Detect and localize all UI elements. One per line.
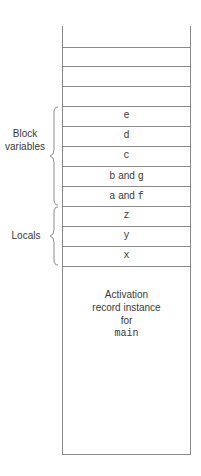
block-variables-label: Block variables [2,127,48,153]
slot-divider [63,47,190,48]
cell-y: y [63,226,190,246]
cell-c: c [63,146,190,166]
cell-d: d [63,126,190,146]
slot-divider [63,66,190,67]
var-g: g [138,171,144,182]
block-variables-line1: Block [2,127,48,140]
slot-divider [63,86,190,87]
ar-line-4: main [63,327,190,340]
locals-label: Locals [8,229,44,242]
slot-divider [63,266,190,267]
activation-record-stack: e d c b and g a and f z y x Activation r… [62,26,191,455]
block-variables-brace-icon [49,106,61,206]
cell-a-and-f: a and f [63,186,190,206]
and-text: and [115,190,137,201]
var-f: f [138,191,144,202]
ar-line-3: for [63,314,190,327]
locals-brace-icon [49,206,61,266]
cell-x: x [63,246,190,266]
cell-b-and-g: b and g [63,166,190,186]
cell-z: z [63,206,190,226]
ar-line-1: Activation [63,288,190,301]
main-activation-record: Activation record instance for main [63,288,190,340]
and-text: and [115,170,137,181]
block-variables-line2: variables [2,140,48,153]
ar-line-2: record instance [63,301,190,314]
cell-e: e [63,106,190,126]
